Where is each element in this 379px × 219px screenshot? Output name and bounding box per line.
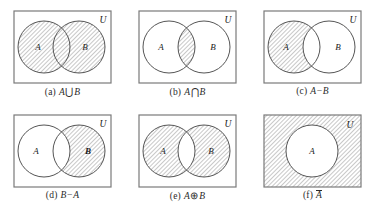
caption-b-lhs: A bbox=[184, 87, 190, 97]
panel-c-difference-ab: U A B (c)A−B bbox=[250, 2, 375, 106]
venn-svg-c: U A B bbox=[250, 2, 375, 92]
venn-svg-f: U A bbox=[250, 106, 375, 196]
set-b-label-a: B bbox=[82, 42, 88, 52]
caption-e-rhs: B bbox=[199, 191, 205, 201]
caption-c-rhs: B bbox=[323, 86, 329, 96]
set-a-label-f: A bbox=[308, 146, 315, 156]
caption-f-lhs: A bbox=[316, 190, 322, 201]
caption-c-op: − bbox=[317, 86, 323, 96]
caption-c-lhs: A bbox=[310, 86, 316, 96]
venn-diagram-figure: U A B (a)A⋃B U A B (b)A⋂B bbox=[0, 0, 379, 219]
venn-svg-e: U A B bbox=[125, 106, 250, 196]
set-a-label-b: A bbox=[157, 42, 164, 52]
set-b-label-d: B bbox=[84, 146, 91, 156]
panel-d-difference-ba: U A B (d)B−A bbox=[0, 106, 125, 210]
caption-f-index: (f) bbox=[303, 190, 313, 200]
caption-b: (b)A⋂B bbox=[125, 86, 250, 97]
caption-d-lhs: B bbox=[61, 190, 67, 200]
caption-a: (a)A⋃B bbox=[0, 86, 125, 97]
set-a-label-a: A bbox=[34, 42, 41, 52]
set-b-label-e: B bbox=[208, 146, 214, 156]
panel-e-symmetric-difference: U A B (e)A⊕B bbox=[125, 106, 250, 210]
panel-f-complement: U A (f)A bbox=[250, 106, 375, 210]
caption-d-op: − bbox=[67, 190, 73, 200]
universe-label-b: U bbox=[225, 15, 233, 25]
caption-e: (e)A⊕B bbox=[125, 190, 250, 201]
caption-e-op: ⊕ bbox=[190, 191, 198, 201]
venn-svg-a: U A B bbox=[0, 2, 125, 92]
caption-a-op: ⋃ bbox=[65, 87, 73, 97]
set-a-label-d: A bbox=[32, 146, 39, 156]
caption-b-rhs: B bbox=[199, 87, 205, 97]
caption-c-index: (c) bbox=[296, 86, 307, 96]
caption-f: (f)A bbox=[250, 190, 375, 201]
universe-label-d: U bbox=[100, 119, 108, 129]
set-a-label-c: A bbox=[282, 42, 289, 52]
caption-d-index: (d) bbox=[46, 190, 58, 200]
caption-c: (c)A−B bbox=[250, 86, 375, 96]
universe-label-a: U bbox=[100, 15, 108, 25]
set-a-label-e: A bbox=[159, 146, 166, 156]
caption-d: (d)B−A bbox=[0, 190, 125, 200]
caption-a-index: (a) bbox=[45, 87, 56, 97]
caption-a-rhs: B bbox=[74, 87, 80, 97]
venn-svg-b: U A B bbox=[125, 2, 250, 92]
universe-label-e: U bbox=[225, 119, 233, 129]
caption-e-index: (e) bbox=[170, 191, 181, 201]
panel-b-intersection: U A B (b)A⋂B bbox=[125, 2, 250, 106]
set-b-label-b: B bbox=[210, 42, 216, 52]
caption-b-index: (b) bbox=[170, 87, 182, 97]
universe-label-f: U bbox=[347, 120, 355, 130]
caption-b-op: ⋂ bbox=[191, 87, 199, 97]
set-b-label-c: B bbox=[335, 42, 341, 52]
venn-svg-d: U A B bbox=[0, 106, 125, 196]
universe-label-c: U bbox=[350, 15, 358, 25]
panel-a-union: U A B (a)A⋃B bbox=[0, 2, 125, 106]
caption-d-rhs: A bbox=[73, 190, 79, 200]
